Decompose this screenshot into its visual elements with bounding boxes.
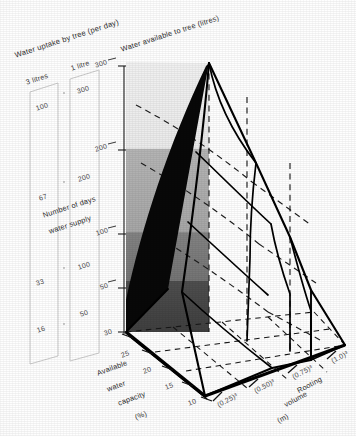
z-axis bbox=[118, 66, 126, 334]
floor-front-edges bbox=[126, 332, 345, 399]
z-label-leaders bbox=[108, 58, 116, 282]
figure-canvas: Water uptake by tree (per day) 3 litres … bbox=[0, 0, 356, 436]
legend-panel-3-litres bbox=[30, 83, 58, 364]
